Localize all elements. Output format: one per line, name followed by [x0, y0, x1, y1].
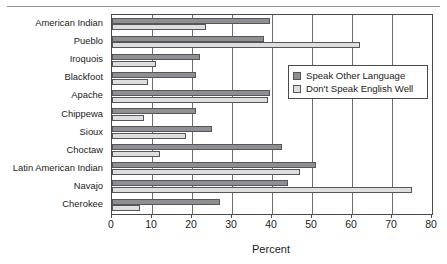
bar-rows — [112, 15, 432, 214]
tick-label: 0 — [96, 218, 126, 230]
y-axis-label: Chippewa — [61, 109, 103, 119]
bar-speak-other-language — [112, 162, 316, 168]
legend-label: Don't Speak English Well — [306, 83, 413, 94]
tick-label: 10 — [136, 218, 166, 230]
bar-row — [112, 33, 432, 51]
bar-dont-speak-english-well — [112, 151, 160, 157]
bar-dont-speak-english-well — [112, 24, 206, 30]
x-axis-ticks: 01020304050607080 — [111, 214, 431, 230]
dark-gray-swatch-icon — [293, 72, 301, 80]
bar-row — [112, 15, 432, 33]
bar-speak-other-language — [112, 36, 264, 42]
y-axis-label: Blackfoot — [64, 72, 103, 82]
bar-speak-other-language — [112, 144, 282, 150]
chart-legend: Speak Other Language Don't Speak English… — [288, 65, 428, 99]
bar-speak-other-language — [112, 126, 212, 132]
bar-dont-speak-english-well — [112, 169, 300, 175]
bar-dont-speak-english-well — [112, 133, 186, 139]
tick-label: 40 — [256, 218, 286, 230]
legend-item: Don't Speak English Well — [293, 82, 423, 95]
y-axis-label: Iroquois — [70, 54, 103, 64]
tick-label: 50 — [296, 218, 326, 230]
tick-label: 20 — [176, 218, 206, 230]
bar-dont-speak-english-well — [112, 61, 156, 67]
plot-area — [111, 14, 433, 215]
bar-dont-speak-english-well — [112, 187, 412, 193]
y-axis-label: Cherokee — [62, 199, 103, 209]
bar-row — [112, 160, 432, 178]
x-axis-title: Percent — [111, 243, 431, 255]
bar-speak-other-language — [112, 90, 270, 96]
y-axis-category-labels: American IndianPuebloIroquoisBlackfootAp… — [0, 14, 107, 213]
bar-speak-other-language — [112, 72, 196, 78]
bar-dont-speak-english-well — [112, 79, 148, 85]
bar-row — [112, 105, 432, 123]
bar-speak-other-language — [112, 18, 270, 24]
header-divider — [7, 6, 440, 7]
tick-label: 30 — [216, 218, 246, 230]
tick-label: 70 — [376, 218, 406, 230]
bar-speak-other-language — [112, 54, 200, 60]
chart-figure: American IndianPuebloIroquoisBlackfootAp… — [0, 0, 447, 264]
y-axis-label: Choctaw — [67, 145, 103, 155]
bar-speak-other-language — [112, 108, 196, 114]
y-axis-label: Pueblo — [74, 36, 103, 46]
y-axis-label: Apache — [71, 90, 103, 100]
bar-dont-speak-english-well — [112, 42, 360, 48]
bar-speak-other-language — [112, 199, 220, 205]
legend-label: Speak Other Language — [306, 70, 405, 81]
legend-item: Speak Other Language — [293, 69, 423, 82]
bar-dont-speak-english-well — [112, 205, 140, 211]
light-gray-swatch-icon — [293, 85, 301, 93]
y-axis-label: Navajo — [74, 181, 103, 191]
tick-label: 60 — [336, 218, 366, 230]
bar-row — [112, 196, 432, 214]
y-axis-label: Sioux — [80, 127, 103, 137]
bar-row — [112, 178, 432, 196]
bar-row — [112, 124, 432, 142]
bar-dont-speak-english-well — [112, 115, 144, 121]
y-axis-label: Latin American Indian — [13, 163, 103, 173]
y-axis-label: American Indian — [35, 18, 103, 28]
tick-label: 80 — [416, 218, 446, 230]
bar-row — [112, 142, 432, 160]
bar-speak-other-language — [112, 180, 288, 186]
bar-dont-speak-english-well — [112, 97, 268, 103]
